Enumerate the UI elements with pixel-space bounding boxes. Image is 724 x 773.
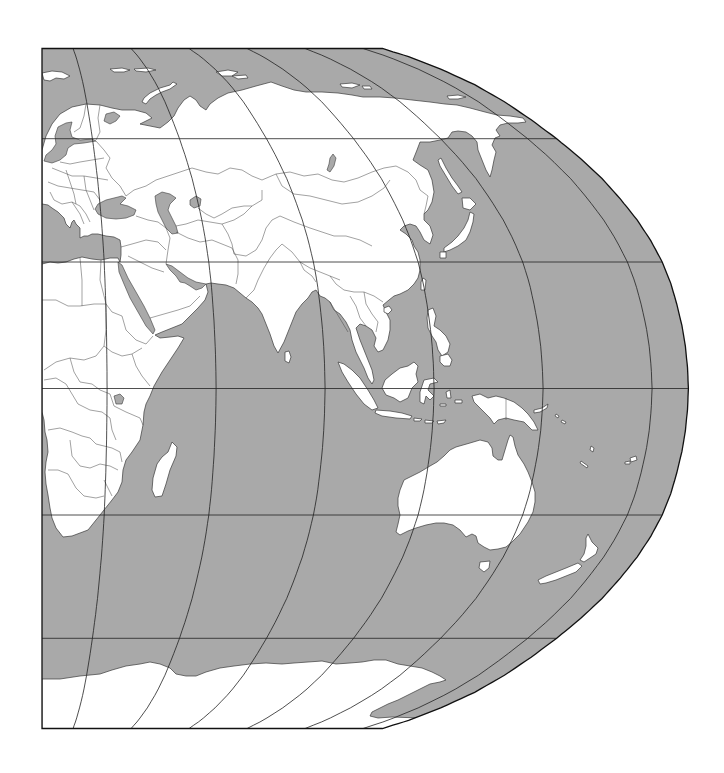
world-map bbox=[0, 0, 724, 773]
map-svg bbox=[0, 0, 724, 773]
kyushu bbox=[440, 252, 446, 258]
